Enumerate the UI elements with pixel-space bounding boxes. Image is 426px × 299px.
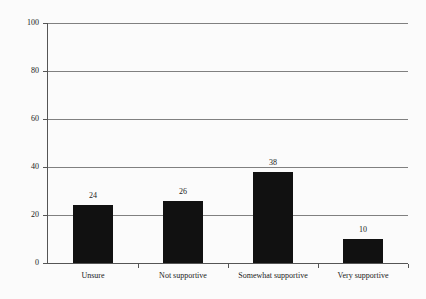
bar-chart: 020406080100 24263810 UnsureNot supporti…	[0, 0, 426, 299]
bar-2	[253, 172, 293, 263]
y-tick-label-60: 60	[13, 115, 39, 123]
x-tick-0	[138, 264, 139, 268]
bar-0	[73, 205, 113, 263]
y-tick-label-20: 20	[13, 211, 39, 219]
y-tick-label-100: 100	[13, 19, 39, 27]
bar-value-label-2: 38	[243, 159, 303, 167]
x-tick-3	[408, 264, 409, 268]
x-tick-2	[318, 264, 319, 268]
bar-3	[343, 239, 383, 263]
y-tick-100	[43, 23, 47, 24]
bar-value-label-0: 24	[63, 192, 123, 200]
y-tick-label-0: 0	[13, 259, 39, 267]
bar-value-label-1: 26	[153, 188, 213, 196]
y-tick-60	[43, 119, 47, 120]
bar-1	[163, 201, 203, 263]
y-tick-label-40: 40	[13, 163, 39, 171]
bar-value-label-3: 10	[333, 226, 393, 234]
y-tick-40	[43, 167, 47, 168]
y-tick-0	[43, 263, 47, 264]
x-category-label-3: Very supportive	[303, 272, 423, 280]
x-tick-1	[228, 264, 229, 268]
y-tick-80	[43, 71, 47, 72]
y-tick-label-80: 80	[13, 67, 39, 75]
y-tick-20	[43, 215, 47, 216]
